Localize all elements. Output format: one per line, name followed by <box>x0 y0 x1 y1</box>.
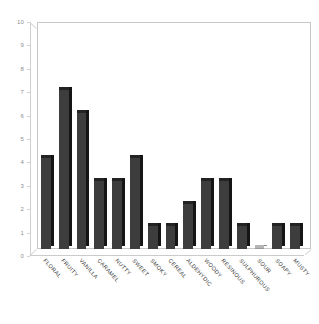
bar-top-face <box>77 110 87 113</box>
bar[interactable] <box>112 181 122 249</box>
bar-slot <box>77 22 87 249</box>
bar-side-face <box>193 201 196 246</box>
bar-chart: 012345678910 FLORALFRUITYVANILLACARAMELN… <box>0 0 319 324</box>
y-axis-tick-mark <box>27 233 30 234</box>
bar-slot <box>59 22 69 249</box>
bar[interactable] <box>77 113 87 249</box>
bar-side-face <box>122 178 125 246</box>
y-axis-tick-label: 10 <box>2 19 24 25</box>
bar[interactable] <box>272 226 282 249</box>
bar-slot <box>237 22 247 249</box>
bar[interactable] <box>94 181 104 249</box>
bars-layer <box>37 22 311 256</box>
bar[interactable] <box>59 90 69 249</box>
bar-slot <box>166 22 176 249</box>
y-axis-tick-mark <box>27 116 30 117</box>
bar-side-face <box>140 155 143 246</box>
bar-slot <box>112 22 122 249</box>
bar-top-face <box>237 223 247 226</box>
bar-top-face <box>112 178 122 181</box>
x-axis-category-label: SOAPY <box>274 258 292 277</box>
x-axis-category-label: SOUR <box>256 258 272 275</box>
y-axis-tick-mark <box>27 209 30 210</box>
bar-top-face <box>41 155 51 158</box>
y-axis-tick-label: 9 <box>2 42 24 48</box>
bar[interactable] <box>237 226 247 249</box>
x-axis-category-label: SMOKY <box>149 258 168 278</box>
bar-top-face <box>255 245 265 248</box>
y-axis-tick-mark <box>27 45 30 46</box>
bar[interactable] <box>166 226 176 249</box>
x-axis-category-label: FRUITY <box>60 258 79 278</box>
bar-side-face <box>229 178 232 246</box>
bar-side-face <box>247 223 250 246</box>
bar[interactable] <box>290 226 300 249</box>
bar-slot <box>201 22 211 249</box>
y-axis-tick-label: 1 <box>2 230 24 236</box>
bar-side-face <box>175 223 178 246</box>
bar-top-face <box>219 178 229 181</box>
y-axis-tick-mark <box>27 139 30 140</box>
bar-side-face <box>104 178 107 246</box>
bar-slot <box>219 22 229 249</box>
bar-slot <box>130 22 140 249</box>
bar-top-face <box>201 178 211 181</box>
y-axis-tick-mark <box>27 256 30 257</box>
bar-top-face <box>94 178 104 181</box>
bar-slot <box>94 22 104 249</box>
bar-top-face <box>130 155 140 158</box>
bar-side-face <box>158 223 161 246</box>
bar[interactable] <box>148 226 158 249</box>
bar-top-face <box>272 223 282 226</box>
y-axis-tick-label: 5 <box>2 136 24 142</box>
bar[interactable] <box>41 158 51 249</box>
bar-top-face <box>183 201 193 204</box>
bar-slot <box>272 22 282 249</box>
bar[interactable] <box>201 181 211 249</box>
bar-top-face <box>166 223 176 226</box>
y-axis: 012345678910 <box>0 22 30 256</box>
y-axis-tick-label: 4 <box>2 159 24 165</box>
bar-top-face <box>148 223 158 226</box>
bar-side-face <box>86 110 89 246</box>
y-axis-tick-label: 6 <box>2 113 24 119</box>
bar-side-face <box>211 178 214 246</box>
bar-slot <box>41 22 51 249</box>
y-axis-tick-label: 3 <box>2 183 24 189</box>
y-axis-tick-label: 0 <box>2 253 24 259</box>
y-axis-tick-label: 8 <box>2 66 24 72</box>
bar-top-face <box>290 223 300 226</box>
bar[interactable] <box>183 204 193 249</box>
y-axis-tick-mark <box>27 162 30 163</box>
bar-top-face <box>59 87 69 90</box>
x-axis-category-label: SWEET <box>131 258 150 278</box>
bar-side-face <box>69 87 72 246</box>
bar-slot <box>183 22 193 249</box>
y-axis-tick-mark <box>27 186 30 187</box>
y-axis-tick-label: 2 <box>2 206 24 212</box>
bar-side-face <box>282 223 285 246</box>
y-axis-tick-label: 7 <box>2 89 24 95</box>
bar[interactable] <box>255 248 265 249</box>
x-axis-category-label: MUSTY <box>291 258 309 278</box>
bar-side-face <box>300 223 303 246</box>
bar[interactable] <box>219 181 229 249</box>
bar-slot <box>255 22 265 249</box>
x-axis-labels: FLORALFRUITYVANILLACARAMELNUTTYSWEETSMOK… <box>37 258 311 324</box>
bar-slot <box>290 22 300 249</box>
bar-side-face <box>51 155 54 246</box>
y-axis-tick-mark <box>27 22 30 23</box>
y-axis-tick-mark <box>27 92 30 93</box>
bar-slot <box>148 22 158 249</box>
y-axis-tick-mark <box>27 69 30 70</box>
bar-side-face <box>264 245 267 246</box>
bar[interactable] <box>130 158 140 249</box>
